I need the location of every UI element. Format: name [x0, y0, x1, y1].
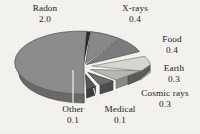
slice-label-medical-value: 0.1 [96, 115, 144, 126]
slice-label-food: Food 0.4 [148, 34, 196, 55]
slice-label-radon-name: Radon [12, 3, 78, 14]
slice-label-food-name: Food [148, 34, 196, 45]
slice-label-radon: Radon 2.0 [12, 3, 78, 24]
slice-label-earth-name: Earth [150, 63, 198, 74]
slice-label-food-value: 0.4 [148, 45, 196, 56]
slice-label-xrays-value: 0.4 [106, 14, 164, 25]
pie-chart: Radon 2.0 X-rays 0.4 Food 0.4 Earth 0.3 … [0, 0, 200, 134]
slice-label-earth: Earth 0.3 [150, 63, 198, 84]
slice-label-cosmic-rays-name: Cosmic rays [130, 88, 200, 99]
slice-label-radon-value: 2.0 [12, 14, 78, 25]
slice-label-medical-name: Medical [96, 104, 144, 115]
slice-label-other-name: Other [50, 104, 96, 115]
slice-label-medical: Medical 0.1 [96, 104, 144, 125]
slice-label-other: Other 0.1 [50, 104, 96, 125]
slice-label-xrays: X-rays 0.4 [106, 3, 164, 24]
slice-label-earth-value: 0.3 [150, 74, 198, 85]
slice-label-other-value: 0.1 [50, 115, 96, 126]
slice-label-xrays-name: X-rays [106, 3, 164, 14]
slice-side-radon-inner [84, 94, 85, 103]
